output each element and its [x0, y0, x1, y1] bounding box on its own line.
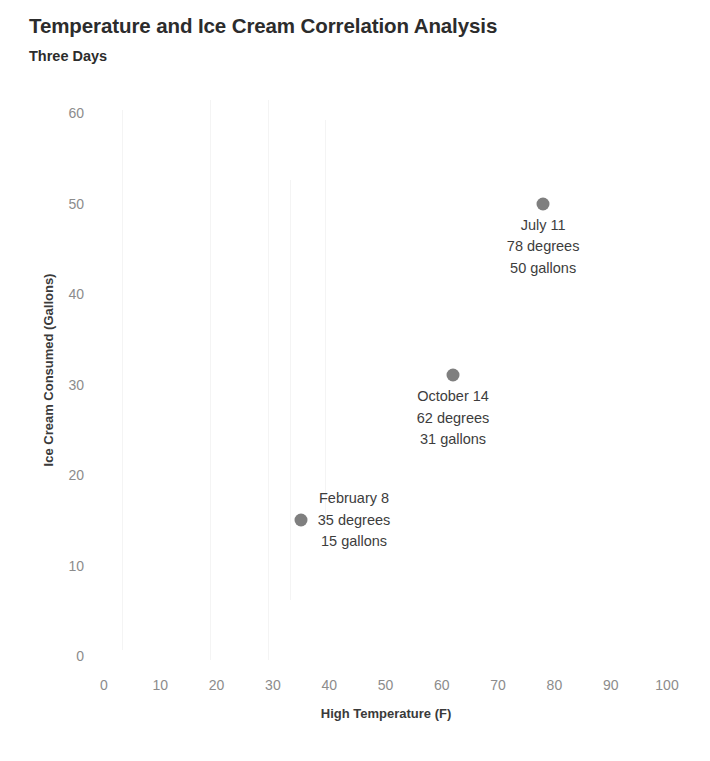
data-point-temperature: 35 degrees [318, 510, 391, 532]
data-point-marker[interactable] [295, 514, 308, 527]
data-point-date: July 11 [507, 215, 580, 237]
x-tick-label: 0 [100, 677, 108, 693]
x-tick-label: 70 [490, 677, 506, 693]
scan-artifact [268, 100, 269, 660]
x-tick-label: 100 [655, 677, 678, 693]
data-point-gallons: 15 gallons [318, 531, 391, 553]
y-tick-label: 10 [68, 558, 84, 574]
data-point-label: October 1462 degrees31 gallons [417, 386, 490, 451]
y-tick-label: 30 [68, 377, 84, 393]
x-tick-label: 30 [265, 677, 281, 693]
data-point-gallons: 31 gallons [417, 429, 490, 451]
data-point-temperature: 78 degrees [507, 236, 580, 258]
data-point-temperature: 62 degrees [417, 408, 490, 430]
data-point-marker[interactable] [537, 197, 550, 210]
scatter-plot: Ice Cream Consumed (Gallons) High Temper… [0, 0, 710, 761]
x-tick-label: 90 [603, 677, 619, 693]
x-tick-label: 50 [378, 677, 394, 693]
x-tick-label: 10 [153, 677, 169, 693]
scan-artifact [122, 110, 123, 650]
scan-artifact [290, 180, 291, 600]
data-point-marker[interactable] [447, 369, 460, 382]
x-tick-label: 20 [209, 677, 225, 693]
data-point-date: October 14 [417, 386, 490, 408]
y-tick-label: 0 [76, 648, 84, 664]
x-tick-label: 60 [434, 677, 450, 693]
scan-artifact [325, 120, 326, 520]
scan-artifact [210, 100, 211, 660]
y-tick-label: 20 [68, 467, 84, 483]
x-tick-label: 80 [547, 677, 563, 693]
y-tick-label: 50 [68, 196, 84, 212]
x-axis-title: High Temperature (F) [321, 706, 452, 721]
y-tick-label: 40 [68, 286, 84, 302]
data-point-date: February 8 [318, 488, 391, 510]
data-point-gallons: 50 gallons [507, 258, 580, 280]
y-axis-title: Ice Cream Consumed (Gallons) [41, 274, 56, 467]
data-point-label: July 1178 degrees50 gallons [507, 215, 580, 280]
x-tick-label: 40 [321, 677, 337, 693]
y-tick-label: 60 [68, 105, 84, 121]
data-point-label: February 835 degrees15 gallons [318, 488, 391, 553]
